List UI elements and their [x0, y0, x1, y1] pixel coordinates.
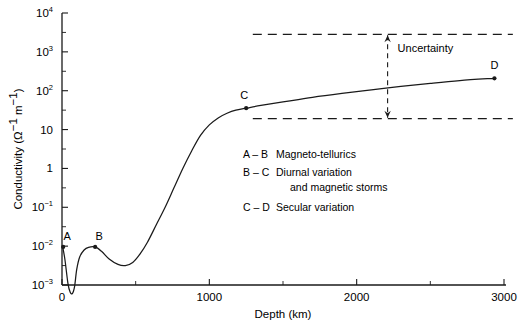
- point-label-B: B: [95, 230, 102, 242]
- y-tick-label-3: 10: [40, 124, 53, 136]
- data-point-A: [61, 245, 65, 249]
- legend-text-0: Magneto-tellurics: [276, 148, 356, 160]
- y-tick-label-1: 103: [36, 44, 53, 58]
- point-label-A: A: [64, 230, 72, 242]
- legend-text-1: Diurnal variation: [276, 166, 352, 178]
- y-tick-label-5: 10−1: [32, 199, 53, 213]
- y-tick-label-4: 1: [47, 162, 53, 174]
- x-tick-label-0: 0: [59, 291, 65, 303]
- data-point-C: [244, 106, 248, 110]
- data-point-D: [492, 76, 496, 80]
- point-label-C: C: [240, 89, 248, 101]
- x-tick-label-1: 1000: [197, 291, 223, 303]
- legend-range-0: A – B: [243, 148, 268, 160]
- point-label-D: D: [490, 59, 498, 71]
- uncertainty-arrowhead-up: [384, 35, 390, 42]
- y-tick-label-6: 10−2: [32, 238, 53, 252]
- y-tick-label-7: 10−3: [32, 277, 53, 291]
- chart-svg: 10410310210110−110−210−3Conductivity (Ω−…: [0, 0, 527, 321]
- legend-range-1: B – C: [243, 166, 270, 178]
- legend-text-2: Secular variation: [276, 201, 354, 213]
- conductivity-curve: [63, 78, 495, 294]
- x-tick-label-3: 3000: [491, 291, 517, 303]
- legend-range-2: C – D: [243, 201, 270, 213]
- y-tick-label-2: 102: [36, 83, 53, 97]
- data-point-B: [93, 245, 97, 249]
- y-tick-label-0: 104: [36, 5, 53, 19]
- uncertainty-label: Uncertainty: [398, 42, 454, 54]
- conductivity-depth-figure: 10410310210110−110−210−3Conductivity (Ω−…: [0, 0, 527, 321]
- y-axis-title: Conductivity (Ω−1 m−1): [7, 88, 24, 209]
- x-axis-title: Depth (km): [255, 308, 312, 320]
- legend-text2-1: and magnetic storms: [290, 181, 387, 193]
- x-tick-label-2: 2000: [344, 291, 370, 303]
